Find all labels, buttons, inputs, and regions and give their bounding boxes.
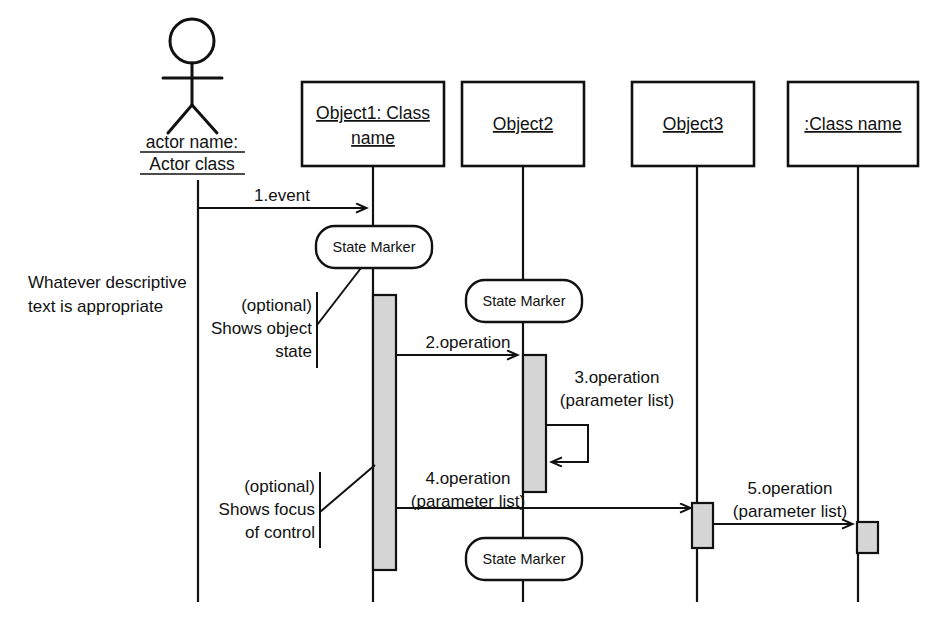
note-focus-leader [320,465,375,512]
message-label-1: 1.event [254,186,310,205]
state-marker-1-label: State Marker [333,239,416,255]
message-label-3-line2: (parameter list) [560,391,674,410]
participant-label-object2: Object2 [493,114,553,134]
message-label-5-line1: 5.operation [747,479,832,498]
participant-label-object1-line2: name [351,128,395,148]
activation-bar-object2[interactable] [523,355,546,492]
activation-bar-object1[interactable] [373,295,396,570]
state-marker-2[interactable]: State Marker [466,280,582,322]
actor-name-line1: actor name: [146,132,238,152]
state-marker-3-label: State Marker [483,551,566,567]
message-label-5-line2: (parameter list) [733,502,847,521]
message-label-3-line1: 3.operation [574,368,659,387]
state-marker-2-label: State Marker [483,293,566,309]
note-object-state-line2: Shows object [211,319,312,338]
participant-label-classname: :Class name [804,114,901,134]
diagram-svg: actor name: Actor class Object1: Class n… [0,0,927,624]
state-marker-3[interactable]: State Marker [466,538,582,580]
activation-bar-classname[interactable] [857,522,878,553]
actor-figure [163,19,222,133]
participant-label-object1-line1: Object1: Class [316,103,430,123]
message-label-4-line2: (parameter list) [411,492,525,511]
message-label-2: 2.operation [425,333,510,352]
note-focus-line1: (optional) [244,477,315,496]
note-focus-line2: Shows focus [219,500,315,519]
message-label-4-line1: 4.operation [425,469,510,488]
participant-box-object1[interactable] [302,82,444,166]
actor-leg-left [168,105,192,133]
actor-name-line2: Actor class [149,154,235,174]
note-descriptive-line2: text is appropriate [28,297,163,316]
note-object-state-line1: (optional) [241,296,312,315]
actor-head-icon [170,19,214,63]
actor-leg-right [192,105,217,133]
participant-label-object3: Object3 [663,114,723,134]
note-object-state-leader [317,268,361,325]
activation-bar-object3[interactable] [692,503,713,548]
message-arrow-3-self[interactable] [546,425,588,462]
state-marker-1[interactable]: State Marker [316,226,432,268]
note-descriptive-line1: Whatever descriptive [28,273,187,292]
sequence-diagram-canvas: actor name: Actor class Object1: Class n… [0,0,927,624]
note-object-state-line3: state [275,342,312,361]
note-focus-line3: of control [245,523,315,542]
